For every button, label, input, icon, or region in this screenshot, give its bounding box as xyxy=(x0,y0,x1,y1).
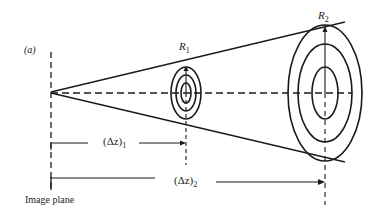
ring-label-r2-name: R xyxy=(318,9,325,21)
cone-lower-line xyxy=(51,93,345,162)
dz2-arrowhead xyxy=(318,179,325,185)
panel-label: (a) xyxy=(24,45,36,55)
ring-label-r1-subscript: 1 xyxy=(186,46,190,55)
distance-label-dz1-text: (Δz) xyxy=(103,135,122,147)
distance-label-dz2: (Δz)2 xyxy=(174,175,197,189)
distance-label-dz1-subscript: 1 xyxy=(122,141,126,150)
image-plane-label: Image plane xyxy=(25,195,74,205)
ring-label-r2-subscript: 2 xyxy=(325,15,329,24)
cone-upper-line xyxy=(51,22,345,92)
ring-label-r1-name: R xyxy=(179,40,186,52)
distance-label-dz2-subscript: 2 xyxy=(193,180,197,189)
ring-label-r1: R1 xyxy=(179,41,190,55)
dz1-arrowhead xyxy=(180,141,186,146)
cone-ring-diagram: (a) R1 R2 (Δz)1 (Δz)2 Image plane xyxy=(0,0,380,216)
distance-label-dz2-text: (Δz) xyxy=(174,174,193,186)
ring-label-r2: R2 xyxy=(318,10,329,24)
distance-label-dz1: (Δz)1 xyxy=(103,136,126,150)
